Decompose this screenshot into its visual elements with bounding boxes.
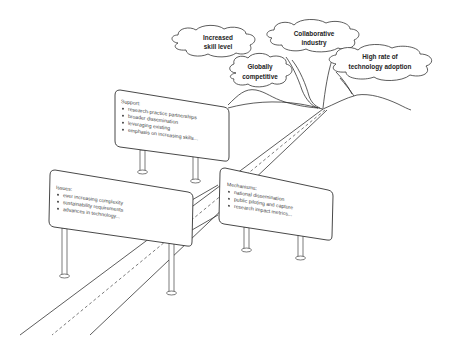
goal-cloud-high-rate-technology-adoption: High rate of technology adoption [329,44,431,80]
goal-label: competitive [242,73,278,81]
goal-label: industry [301,39,327,47]
goal-label: Increased [203,34,233,41]
roadmap-diagram: Support: research-practice partnerships … [0,0,461,347]
mechanisms-sign: Mechanisms: national dissemination publi… [219,168,333,240]
support-sign: Support: research-practice partnerships … [115,90,229,161]
goal-label: Collaborative [294,30,335,37]
goal-cloud-increased-skill-level: Increased skill level [172,25,255,57]
issues-sign: Issues: ever increasing complexity susta… [49,170,193,246]
goal-cloud-globally-competitive: Globally competitive [230,53,292,87]
goal-label: technology adoption [349,63,412,71]
goal-label: Globally [247,63,273,71]
goal-cloud-collaborative-industry: Collaborative industry [267,19,359,51]
goal-label: High rate of [362,53,398,61]
goal-label: skill level [204,43,233,50]
road-crossing [192,185,218,230]
